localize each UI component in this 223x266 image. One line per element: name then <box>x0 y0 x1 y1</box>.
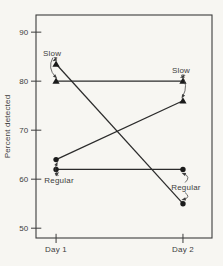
paper-background <box>0 0 223 266</box>
scanned-figure: 5060708090Day 1Day 2Percent detectedSlow… <box>0 0 223 266</box>
y-axis-title: Percent detected <box>3 95 12 159</box>
circle-marker <box>53 157 58 162</box>
y-tick-label: 90 <box>19 28 29 37</box>
annotation-label: Regular <box>171 183 201 192</box>
annotation-label: Slow <box>172 66 190 75</box>
circle-marker <box>180 167 185 172</box>
annotation-label: Regular <box>44 176 74 185</box>
annotation-label: Slow <box>43 49 61 58</box>
percent-detected-line-chart: 5060708090Day 1Day 2Percent detectedSlow… <box>0 0 223 266</box>
x-tick-label: Day 1 <box>45 245 67 254</box>
y-tick-label: 80 <box>19 77 29 86</box>
circle-marker <box>180 201 185 206</box>
y-tick-label: 70 <box>19 126 29 135</box>
y-tick-label: 60 <box>19 175 29 184</box>
y-tick-label: 50 <box>19 224 29 233</box>
x-tick-label: Day 2 <box>172 245 194 254</box>
